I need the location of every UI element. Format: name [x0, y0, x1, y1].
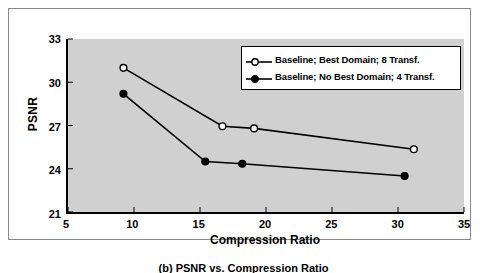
- x-tick-label: 20: [245, 219, 285, 230]
- y-tick-label: 27: [31, 121, 61, 132]
- figure-psnr-vs-compression-ratio: PSNR 2124273033 5101520253035 Compressio…: [0, 0, 487, 273]
- legend-item-label: Baseline; Best Domain; 8 Transf.: [275, 54, 420, 65]
- x-tick-label: 25: [311, 219, 351, 230]
- open-circle-marker: [410, 146, 417, 153]
- x-tick-label: 10: [112, 219, 152, 230]
- chart-frame: PSNR 2124273033 5101520253035 Compressio…: [8, 8, 471, 240]
- x-tick-label: 35: [444, 219, 484, 230]
- open-circle-marker: [246, 54, 272, 66]
- y-tick-label: 21: [31, 209, 61, 220]
- legend: Baseline; Best Domain; 8 Transf.Baseline…: [241, 46, 461, 90]
- filled-circle-marker: [120, 90, 127, 97]
- filled-circle-marker: [246, 71, 272, 83]
- x-axis-title: Compression Ratio: [66, 233, 464, 247]
- x-tick-label: 30: [378, 219, 418, 230]
- open-circle-marker: [251, 125, 258, 132]
- x-tick-label: 15: [179, 219, 219, 230]
- y-tick-label: 24: [31, 165, 61, 176]
- filled-circle-marker: [401, 173, 408, 180]
- filled-circle-marker: [202, 158, 209, 165]
- legend-item: Baseline; No Best Domain; 4 Transf.: [246, 68, 455, 85]
- legend-item: Baseline; Best Domain; 8 Transf.: [246, 51, 455, 68]
- filled-circle-marker: [239, 160, 246, 167]
- y-tick-label: 33: [31, 34, 61, 45]
- series-line: [123, 94, 404, 176]
- open-circle-marker: [120, 64, 127, 71]
- open-circle-marker: [219, 123, 226, 130]
- series-2: [120, 90, 408, 179]
- legend-item-label: Baseline; No Best Domain; 4 Transf.: [275, 71, 435, 82]
- y-axis-tick-labels: 2124273033: [27, 39, 61, 214]
- figure-caption: (b) PSNR vs. Compression Ratio: [0, 262, 487, 273]
- x-tick-label: 5: [46, 219, 86, 230]
- y-tick-label: 30: [31, 77, 61, 88]
